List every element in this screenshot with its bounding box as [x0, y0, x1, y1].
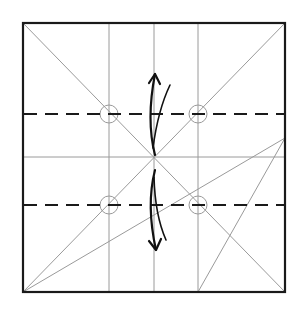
- origami-diagram: [0, 0, 293, 313]
- diagonal-crease-bottom-right: [198, 138, 285, 292]
- crease-lines: [23, 23, 285, 292]
- fold-down-arrow-shaft: [151, 170, 156, 250]
- fold-up-arrow-trail: [153, 85, 170, 148]
